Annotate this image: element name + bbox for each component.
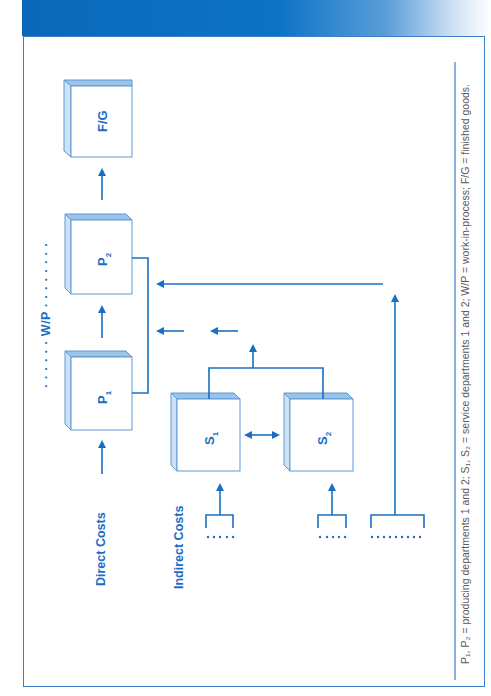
wip-label: · · · · · · W/P · · · · · · · ·	[39, 242, 53, 388]
box-p2-label: P2	[95, 253, 113, 266]
indirect-costs-label: Indirect Costs	[172, 506, 186, 589]
box-s2-label: S2	[315, 432, 333, 445]
cost-flow-diagram	[0, 0, 491, 696]
box-fg-label: F/G	[95, 110, 110, 132]
box-p1-label: P1	[95, 391, 113, 404]
direct-costs-label: Direct Costs	[94, 512, 108, 586]
box-s1-label: S1	[202, 432, 220, 445]
figure-caption: P₁, P₂ = producing departments 1 and 2; …	[459, 84, 471, 664]
